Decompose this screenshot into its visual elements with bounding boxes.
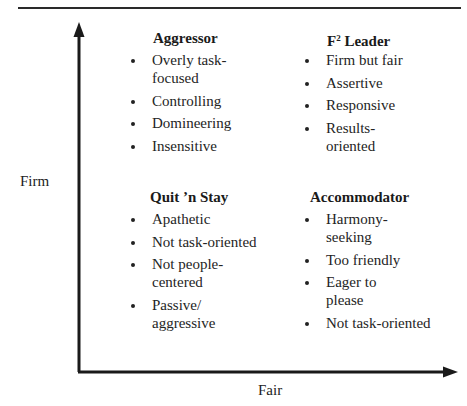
bullet-icon <box>305 218 309 222</box>
y-axis-arrowhead-icon <box>74 22 85 37</box>
list-item: Overly task-focused <box>131 51 252 87</box>
x-axis-arrowhead-icon <box>443 367 458 378</box>
list-item: Not task-oriented <box>131 233 262 251</box>
bullet-icon <box>131 122 135 126</box>
list-item: Assertive <box>305 74 455 92</box>
list-item: Apathetic <box>131 210 281 228</box>
quadrant-f2-leader: F2 Leader Firm but fair Assertive Respon… <box>305 28 455 159</box>
list-item: Insensitive <box>131 137 281 155</box>
bullet-icon <box>305 259 309 263</box>
list-item: Domineering <box>131 114 281 132</box>
bullet-icon <box>305 104 309 108</box>
bullet-icon <box>305 59 309 63</box>
bullet-icon <box>305 82 309 86</box>
trait-list: Overly task-focused Controlling Domineer… <box>131 51 281 155</box>
bullet-icon <box>305 127 309 131</box>
trait-list: Apathetic Not task-oriented Not people-c… <box>131 210 281 332</box>
quadrant-title: F2 Leader <box>305 28 455 48</box>
bullet-icon <box>131 145 135 149</box>
bullet-icon <box>131 218 135 222</box>
y-axis-label: Firm <box>20 173 49 190</box>
quadrant-aggressor: Aggressor Overly task-focused Controllin… <box>131 28 281 159</box>
trait-list: Harmony-seeking Too friendly Eager to pl… <box>305 210 455 332</box>
quadrant-accommodator: Accommodator Harmony-seeking Too friendl… <box>305 187 455 336</box>
quadrant-quit-n-stay: Quit ’n Stay Apathetic Not task-oriented… <box>131 187 281 336</box>
list-item: Controlling <box>131 92 281 110</box>
list-item: Firm but fair <box>305 51 455 69</box>
x-axis-label: Fair <box>258 382 282 399</box>
quadrant-title: Aggressor <box>131 28 281 48</box>
bullet-icon <box>131 100 135 104</box>
bullet-icon <box>131 304 135 308</box>
list-item: Eager to please <box>305 273 398 309</box>
trait-list: Firm but fair Assertive Responsive Resul… <box>305 51 455 155</box>
bullet-icon <box>305 281 309 285</box>
bullet-icon <box>131 263 135 267</box>
bullet-icon <box>131 241 135 245</box>
list-item: Results-oriented <box>305 119 396 155</box>
list-item: Too friendly <box>305 251 455 269</box>
quadrant-title: Accommodator <box>305 187 455 207</box>
list-item: Responsive <box>305 96 455 114</box>
quadrant-title: Quit ’n Stay <box>131 187 281 207</box>
bullet-icon <box>305 322 309 326</box>
list-item: Not people-centered <box>131 255 242 291</box>
list-item: Harmony-seeking <box>305 210 406 246</box>
bullet-icon <box>131 59 135 63</box>
list-item: Passive/ aggressive <box>131 296 242 332</box>
list-item: Not task-oriented <box>305 314 436 332</box>
